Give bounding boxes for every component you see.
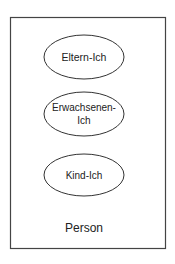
- ellipse-label-erwachsenen-ich-line1: Erwachsenen-: [52, 102, 116, 113]
- person-label: Person: [65, 221, 103, 235]
- ellipse-label-kind-ich: Kind-Ich: [66, 170, 103, 181]
- ellipse-label-eltern-ich: Eltern-Ich: [62, 51, 107, 63]
- ego-states-diagram: Eltern-Ich Erwachsenen- Ich Kind-Ich Per…: [0, 0, 175, 264]
- ellipse-label-erwachsenen-ich-line2: Ich: [77, 115, 90, 126]
